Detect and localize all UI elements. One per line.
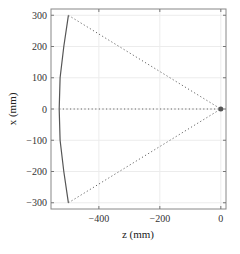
y-tick-label: −300	[26, 197, 47, 208]
series-ray-upper	[68, 15, 220, 109]
focal-point-marker	[218, 107, 223, 112]
y-tick-label: 200	[32, 41, 47, 52]
x-tick-label: −400	[89, 213, 110, 224]
x-tick-label: −200	[150, 213, 171, 224]
series-ray-lower	[68, 109, 220, 203]
y-axis-label: x (mm)	[6, 92, 19, 125]
x-tick-label: 0	[218, 213, 223, 224]
y-tick-label: 0	[42, 104, 47, 115]
x-axis-ticks: −400−2000	[89, 9, 224, 224]
y-tick-label: −200	[26, 166, 47, 177]
chart: −400−2000 3002001000−100−200−300 z (mm) …	[0, 0, 240, 254]
y-tick-label: −100	[26, 135, 47, 146]
x-axis-label: z (mm)	[122, 228, 154, 241]
y-tick-label: 100	[32, 72, 47, 83]
y-tick-label: 300	[32, 10, 47, 21]
